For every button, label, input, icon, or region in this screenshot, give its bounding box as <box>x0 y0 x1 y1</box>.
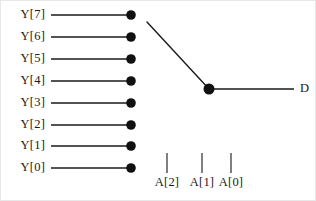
input-node-y5[interactable] <box>126 54 136 64</box>
switch-arm[interactable] <box>147 22 209 89</box>
input-node-y4[interactable] <box>126 76 136 86</box>
input-label-y5: Y[5] <box>3 52 45 65</box>
input-node-y7[interactable] <box>126 10 136 20</box>
input-node-y2[interactable] <box>126 120 136 130</box>
input-node-y3[interactable] <box>126 98 136 108</box>
input-line-group <box>51 15 131 168</box>
select-tick-group <box>167 153 231 173</box>
input-label-y7: Y[7] <box>3 8 45 21</box>
input-label-y0: Y[0] <box>3 161 45 174</box>
diagram-canvas: Y[7]Y[6]Y[5]Y[4]Y[3]Y[2]Y[1]Y[0] A[2]A[1… <box>0 0 316 201</box>
input-label-y4: Y[4] <box>3 74 45 87</box>
input-node-y6[interactable] <box>126 32 136 42</box>
input-node-y1[interactable] <box>126 141 136 151</box>
pivot-node[interactable] <box>204 84 215 95</box>
multiplexer-diagram <box>1 1 316 201</box>
input-label-y3: Y[3] <box>3 96 45 109</box>
input-node-group <box>126 10 136 173</box>
input-label-y6: Y[6] <box>3 30 45 43</box>
input-node-y0[interactable] <box>126 163 136 173</box>
switch-arm-group <box>147 22 209 89</box>
input-label-y2: Y[2] <box>3 118 45 131</box>
output-label-d: D <box>300 82 309 95</box>
input-label-y1: Y[1] <box>3 139 45 152</box>
pivot-node-group <box>204 84 215 95</box>
select-label-a0: A[0] <box>214 176 248 189</box>
select-label-a2: A[2] <box>150 176 184 189</box>
